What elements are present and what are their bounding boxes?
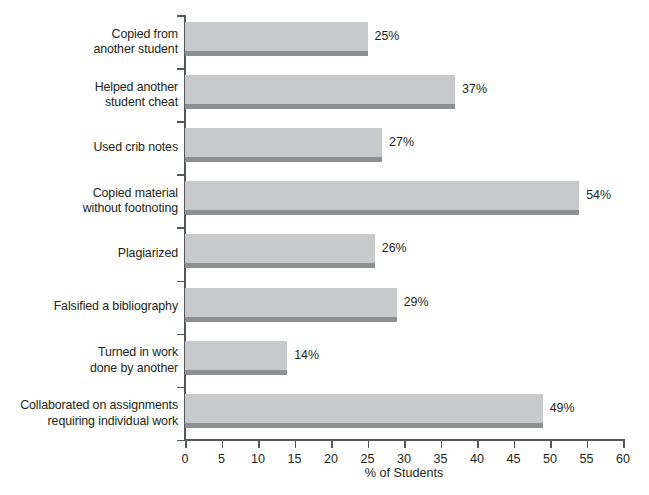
x-axis-title: % of Students [185, 466, 623, 480]
bar-value-label: 49% [550, 401, 575, 416]
bar: 26% [185, 234, 375, 268]
x-axis-tick [477, 439, 479, 448]
category-label: Helped another student cheat [95, 79, 178, 110]
bar-value-label: 27% [389, 135, 414, 150]
bar: 27% [185, 128, 382, 162]
bar-fill [185, 181, 579, 210]
x-axis-tick-label: 5 [218, 452, 225, 466]
category-tick [177, 387, 185, 389]
x-axis-tick [623, 439, 625, 448]
bar-row: Copied material without footnoting54% [185, 174, 623, 227]
x-axis-tick-label: 25 [360, 452, 374, 466]
bar: 49% [185, 394, 543, 428]
bar-shadow [185, 51, 368, 56]
bar-row: Used crib notes27% [185, 121, 623, 174]
category-label: Plagiarized [118, 246, 178, 261]
x-axis-tick-label: 40 [470, 452, 484, 466]
x-axis-tick-label: 20 [324, 452, 338, 466]
bar-shadow [185, 210, 579, 215]
bar-shadow [185, 104, 455, 109]
x-axis-tick-label: 10 [251, 452, 265, 466]
x-axis-tick-label: 45 [506, 452, 520, 466]
bar-row: Collaborated on assignments requiring in… [185, 387, 623, 440]
bar: 37% [185, 75, 455, 109]
bar-fill [185, 394, 543, 423]
bar-shadow [185, 370, 287, 375]
category-tick [177, 281, 185, 283]
category-tick [177, 15, 185, 17]
bar-fill [185, 234, 375, 263]
x-axis-tick [185, 439, 187, 448]
bar-row: Plagiarized26% [185, 227, 623, 280]
bar-fill [185, 341, 287, 370]
x-axis-tick [441, 439, 443, 448]
x-axis-tick [587, 439, 589, 448]
bar-shadow [185, 423, 543, 428]
bar-fill [185, 22, 368, 51]
x-axis-tick [404, 439, 406, 448]
x-axis-tick [295, 439, 297, 448]
category-label: Used crib notes [93, 140, 178, 155]
x-axis-tick-label: 60 [616, 452, 630, 466]
x-axis-tick [514, 439, 516, 448]
bar-value-label: 14% [294, 348, 319, 363]
x-axis-tick-label: 0 [181, 452, 188, 466]
bar-value-label: 37% [462, 82, 487, 97]
bar: 14% [185, 341, 287, 375]
category-tick [177, 121, 185, 123]
bar-shadow [185, 263, 375, 268]
bar-row: Falsified a bibliography29% [185, 281, 623, 334]
category-label: Collaborated on assignments requiring in… [20, 398, 178, 429]
x-axis-tick-label: 50 [543, 452, 557, 466]
x-axis-tick [331, 439, 333, 448]
bar: 54% [185, 181, 579, 215]
bar: 29% [185, 288, 397, 322]
x-axis-tick-label: 30 [397, 452, 411, 466]
category-label: Copied material without footnoting [83, 185, 178, 216]
bar-row: Helped another student cheat37% [185, 68, 623, 121]
x-axis-tick-label: 35 [433, 452, 447, 466]
bar-row: Copied from another student25% [185, 15, 623, 68]
bar: 25% [185, 22, 368, 56]
bar-value-label: 25% [375, 29, 400, 44]
bar-shadow [185, 157, 382, 162]
x-axis-tick-label: 55 [579, 452, 593, 466]
bar-value-label: 29% [404, 295, 429, 310]
category-tick [177, 68, 185, 70]
bar-value-label: 54% [586, 188, 611, 203]
bar-fill [185, 288, 397, 317]
category-tick [177, 440, 185, 442]
bar-value-label: 26% [382, 241, 407, 256]
bar-shadow [185, 317, 397, 322]
x-axis-tick [550, 439, 552, 448]
x-axis-tick [222, 439, 224, 448]
bar-row: Turned in work done by another14% [185, 334, 623, 387]
category-tick [177, 334, 185, 336]
category-label: Copied from another student [93, 26, 178, 57]
category-tick [177, 227, 185, 229]
category-label: Falsified a bibliography [54, 299, 178, 314]
bar-chart: Copied from another student25%Helped ano… [0, 0, 649, 495]
category-tick [177, 174, 185, 176]
bar-fill [185, 128, 382, 157]
category-label: Turned in work done by another [90, 345, 178, 376]
bar-fill [185, 75, 455, 104]
x-axis-tick [258, 439, 260, 448]
plot-area: Copied from another student25%Helped ano… [185, 15, 623, 440]
x-axis-tick [368, 439, 370, 448]
x-axis-tick-label: 15 [287, 452, 301, 466]
